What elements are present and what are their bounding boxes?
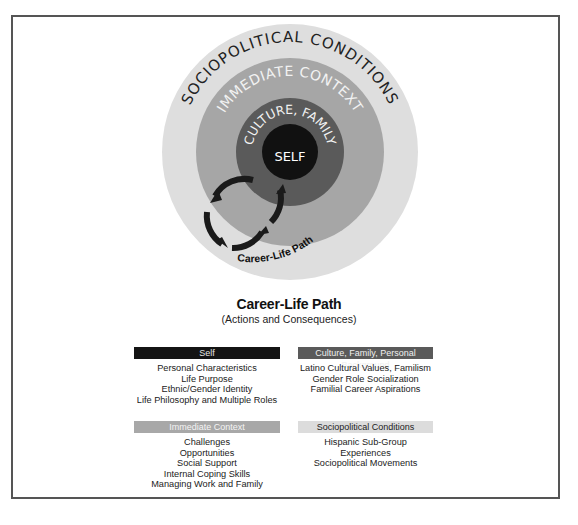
ring-label-self: SELF bbox=[274, 149, 305, 164]
list-item: Ethnic/Gender Identity bbox=[134, 384, 280, 395]
list-item: Life Philosophy and Multiple Roles bbox=[134, 395, 280, 406]
box-header-self: Self bbox=[134, 347, 280, 359]
box-list-self: Personal Characteristics Life Purpose Et… bbox=[134, 363, 280, 405]
list-item: Sociopolitical Movements bbox=[298, 458, 433, 469]
list-item: Managing Work and Family bbox=[134, 479, 280, 490]
diagram-title: Career-Life Path bbox=[0, 296, 578, 312]
title-block: Career-Life Path (Actions and Consequenc… bbox=[0, 296, 578, 325]
box-list-sociopolitical: Hispanic Sub-Group Experiences Sociopoli… bbox=[298, 437, 433, 469]
diagram-subtitle: (Actions and Consequences) bbox=[0, 313, 578, 325]
list-item: Personal Characteristics bbox=[134, 363, 280, 374]
list-item: Familial Career Aspirations bbox=[298, 384, 433, 395]
box-immediate-context: Immediate Context Challenges Opportuniti… bbox=[134, 421, 280, 490]
concentric-circles-diagram: SOCIOPOLITICAL CONDITIONS IMMEDIATE CONT… bbox=[0, 0, 578, 300]
list-item: Hispanic Sub-Group Experiences bbox=[298, 437, 433, 458]
box-header-sociopolitical: Sociopolitical Conditions bbox=[298, 421, 433, 433]
list-item: Life Purpose bbox=[134, 374, 280, 385]
box-list-immediate-context: Challenges Opportunities Social Support … bbox=[134, 437, 280, 490]
list-item: Challenges bbox=[134, 437, 280, 448]
box-sociopolitical: Sociopolitical Conditions Hispanic Sub-G… bbox=[298, 421, 433, 469]
box-list-culture-family: Latino Cultural Values, Familism Gender … bbox=[298, 363, 433, 395]
box-header-culture-family: Culture, Family, Personal Background bbox=[298, 347, 433, 359]
list-item: Social Support bbox=[134, 458, 280, 469]
box-culture-family: Culture, Family, Personal Background Lat… bbox=[298, 347, 433, 395]
list-item: Latino Cultural Values, Familism bbox=[298, 363, 433, 374]
box-self: Self Personal Characteristics Life Purpo… bbox=[134, 347, 280, 405]
list-item: Opportunities bbox=[134, 448, 280, 459]
box-header-immediate-context: Immediate Context bbox=[134, 421, 280, 433]
list-item: Internal Coping Skills bbox=[134, 469, 280, 480]
list-item: Gender Role Socialization bbox=[298, 374, 433, 385]
